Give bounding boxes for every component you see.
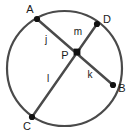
circle-chords-diagram: A D B C P j m k l [0,0,131,139]
label-point-b: B [118,82,125,94]
point-b [110,82,116,88]
label-segment-j: j [44,34,47,45]
label-point-p: P [61,49,68,61]
label-segment-m: m [74,26,82,37]
label-segment-l: l [47,73,49,84]
point-a [34,16,40,22]
point-p [74,49,81,56]
point-d [94,21,100,27]
label-point-c: C [23,120,31,132]
label-point-a: A [26,3,34,15]
label-point-d: D [103,13,111,25]
geometry-figure: A D B C P j m k l [0,0,131,139]
label-segment-k: k [88,69,94,80]
